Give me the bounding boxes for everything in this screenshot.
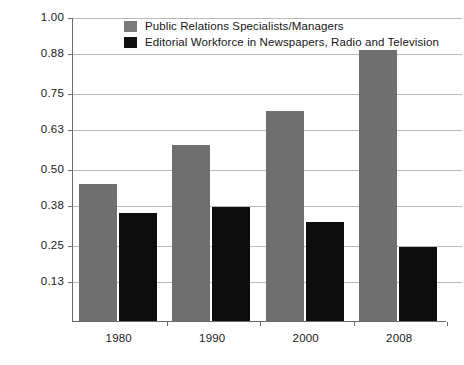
bar-2000-public-relations [266,111,304,321]
legend-item-public-relations: Public Relations Specialists/Managers [124,19,439,33]
y-axis-tick-label: 1.00 [20,11,64,23]
y-axis-tick-label: 0.88 [20,47,64,59]
x-axis-tick-label: 1990 [166,332,260,344]
x-axis-tick [354,322,355,326]
x-axis-tick [260,322,261,326]
plot-area [72,18,446,322]
bar-2008-public-relations [359,50,397,321]
bar-chart: Per 100,000 people 0.130.250.380.500.630… [0,0,464,365]
y-axis-tick [68,246,73,247]
legend-label: Editorial Workforce in Newspapers, Radio… [145,36,439,48]
legend-swatch-icon-black [124,37,137,48]
legend: Public Relations Specialists/Managers Ed… [124,19,439,49]
x-axis-tick [447,322,448,326]
bar-1990-editorial [212,207,250,321]
y-axis-tick [68,94,73,95]
bar-2008-editorial [399,247,437,321]
bar-1980-public-relations [79,184,117,321]
y-axis-tick [68,130,73,131]
y-axis-tick-label: 0.13 [20,275,64,287]
bar-2000-editorial [306,222,344,321]
x-axis-tick-label: 1980 [72,332,166,344]
y-axis-tick-label: 0.38 [20,199,64,211]
bar-1990-public-relations [172,145,210,321]
y-axis-tick-label: 0.63 [20,123,64,135]
y-axis-tick [68,170,73,171]
gridline [73,54,462,55]
y-axis-tick [68,18,73,19]
gridline [73,94,462,95]
legend-label: Public Relations Specialists/Managers [145,20,344,32]
chart-title-cropped [0,0,464,7]
y-axis-tick [68,54,73,55]
bar-1980-editorial [119,213,157,321]
y-axis-tick-label: 0.75 [20,87,64,99]
y-axis-tick-label: 0.25 [20,239,64,251]
y-axis-tick [68,206,73,207]
legend-swatch-icon-gray [124,21,137,32]
legend-item-editorial-workforce: Editorial Workforce in Newspapers, Radio… [124,35,439,49]
x-axis-tick-label: 2000 [259,332,353,344]
x-axis-tick-label: 2008 [353,332,447,344]
x-axis-tick [167,322,168,326]
y-axis-tick-label: 0.50 [20,163,64,175]
y-axis-tick [68,282,73,283]
